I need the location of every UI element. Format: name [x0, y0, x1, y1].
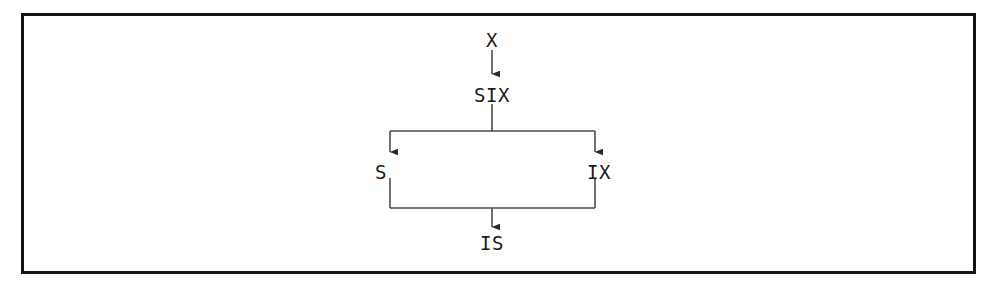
edge-six-to-split	[390, 104, 595, 131]
node-label-x: X	[486, 31, 498, 50]
node-label-is: IS	[480, 234, 504, 253]
node-label-ix: IX	[587, 163, 611, 182]
join-to-is	[390, 208, 595, 227]
node-label-six: SIX	[474, 86, 510, 105]
node-label-s: S	[375, 163, 387, 182]
